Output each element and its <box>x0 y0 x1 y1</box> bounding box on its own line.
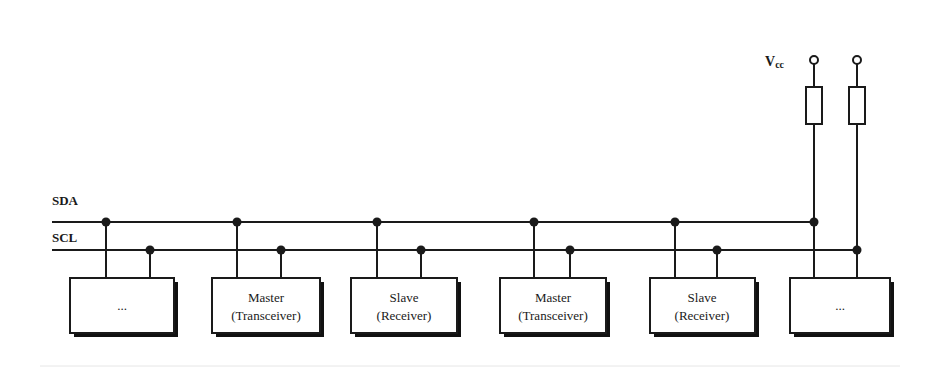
device-ellipsis-right: ... <box>790 278 894 337</box>
junction-dot-icon <box>566 246 575 255</box>
vcc-label: Vcc <box>765 54 785 70</box>
junction-dot-icon <box>530 218 539 227</box>
svg-text:Slave: Slave <box>688 290 717 305</box>
vcc-terminal-icon <box>810 56 818 64</box>
vcc-terminal-icon <box>853 56 861 64</box>
sda-label: SDA <box>52 193 79 208</box>
junction-dot-icon <box>853 246 862 255</box>
device-master-1: Master (Transceiver) <box>212 218 324 338</box>
device-slave-2: Slave (Receiver) <box>650 218 759 338</box>
svg-text:...: ... <box>835 298 845 313</box>
junction-dot-icon <box>713 246 722 255</box>
junction-dot-icon <box>102 218 111 227</box>
device-slave-1: Slave (Receiver) <box>351 218 461 338</box>
svg-text:(Receiver): (Receiver) <box>377 308 432 323</box>
pullup-resistor-scl <box>849 56 865 278</box>
svg-text:Slave: Slave <box>390 290 419 305</box>
junction-dot-icon <box>146 246 155 255</box>
scl-label: SCL <box>52 230 78 245</box>
junction-dot-icon <box>417 246 426 255</box>
svg-text:(Receiver): (Receiver) <box>675 308 730 323</box>
svg-text:Master: Master <box>248 290 285 305</box>
svg-text:Master: Master <box>535 290 572 305</box>
junction-dot-icon <box>373 218 382 227</box>
device-ellipsis-left: ... <box>70 218 178 338</box>
device-master-2: Master (Transceiver) <box>500 218 610 338</box>
svg-text:...: ... <box>117 298 127 313</box>
junction-dot-icon <box>277 246 286 255</box>
svg-text:(Transceiver): (Transceiver) <box>518 308 588 323</box>
i2c-bus-diagram: Vcc SDA SCL ... Master (Tra <box>0 0 944 368</box>
svg-text:(Transceiver): (Transceiver) <box>231 308 301 323</box>
pullup-resistor-sda <box>806 56 822 278</box>
junction-dot-icon <box>810 218 819 227</box>
junction-dot-icon <box>233 218 242 227</box>
junction-dot-icon <box>671 218 680 227</box>
